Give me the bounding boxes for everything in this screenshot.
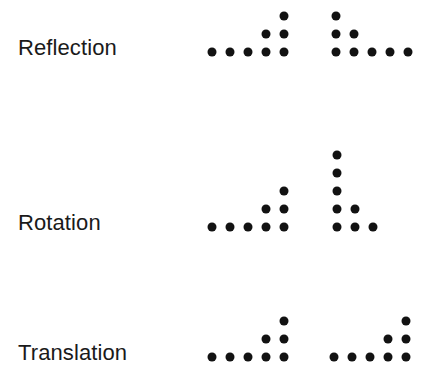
dot [366, 353, 375, 362]
dot [280, 12, 289, 21]
dot [332, 30, 341, 39]
dot [332, 48, 341, 57]
dot [351, 223, 360, 232]
dot [244, 48, 253, 57]
dot [350, 48, 359, 57]
dot [208, 353, 217, 362]
dot [333, 169, 342, 178]
dot [280, 223, 289, 232]
dot [208, 223, 217, 232]
dot [369, 223, 378, 232]
dot [262, 223, 271, 232]
dot [332, 12, 341, 21]
dot [280, 353, 289, 362]
dot [280, 48, 289, 57]
dot [280, 30, 289, 39]
dot [280, 187, 289, 196]
dot [280, 335, 289, 344]
row-label-rotation: Rotation [18, 212, 101, 234]
dot [333, 223, 342, 232]
dot [262, 205, 271, 214]
dot [226, 223, 235, 232]
dot [402, 317, 411, 326]
dot [208, 48, 217, 57]
dot [384, 353, 393, 362]
dot [262, 48, 271, 57]
dot [333, 205, 342, 214]
row-label-translation: Translation [18, 342, 127, 364]
dot [386, 48, 395, 57]
row-label-reflection: Reflection [18, 37, 117, 59]
dot [262, 30, 271, 39]
dot [262, 335, 271, 344]
dot [348, 353, 357, 362]
dot [280, 205, 289, 214]
dot [350, 30, 359, 39]
dot [226, 48, 235, 57]
dot [333, 187, 342, 196]
dot [402, 353, 411, 362]
dot [404, 48, 413, 57]
dot [368, 48, 377, 57]
dot [262, 353, 271, 362]
dot [333, 151, 342, 160]
dot [226, 353, 235, 362]
dot [384, 335, 393, 344]
dot [280, 317, 289, 326]
dot [330, 353, 339, 362]
dot [351, 205, 360, 214]
dot [244, 353, 253, 362]
transformations-figure: ReflectionRotationTranslation [0, 0, 432, 385]
dot [244, 223, 253, 232]
dot [402, 335, 411, 344]
